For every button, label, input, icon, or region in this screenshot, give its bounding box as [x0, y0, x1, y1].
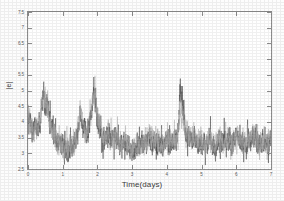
y-tick-mark [28, 138, 32, 139]
y-tick-label: 6.5 [2, 41, 24, 46]
x-axis-label: Time(days) [0, 180, 284, 189]
y-tick-mark [267, 91, 271, 92]
y-tick-mark [28, 75, 32, 76]
x-tick-label: 5 [194, 172, 210, 177]
y-tick-label: 4 [2, 119, 24, 124]
x-tick-label: 0 [20, 172, 36, 177]
y-tick-mark [267, 138, 271, 139]
x-tick-mark [202, 12, 203, 16]
y-tick-mark [267, 75, 271, 76]
x-tick-mark [167, 165, 168, 169]
y-tick-mark [28, 91, 32, 92]
x-tick-mark [63, 165, 64, 169]
y-tick-label: 5 [2, 88, 24, 93]
y-tick-label: 4.5 [2, 104, 24, 109]
y-tick-label: 7 [2, 25, 24, 30]
y-tick-label: 3 [2, 151, 24, 156]
y-tick-label: 3.5 [2, 135, 24, 140]
series-layer [28, 12, 271, 169]
y-tick-label: 6 [2, 57, 24, 62]
x-tick-mark [132, 165, 133, 169]
x-tick-mark [271, 12, 272, 16]
series-path-series-light [28, 76, 271, 160]
y-tick-mark [267, 43, 271, 44]
y-tick-mark [267, 169, 271, 170]
y-tick-mark [28, 169, 32, 170]
y-tick-mark [28, 43, 32, 44]
x-tick-mark [236, 165, 237, 169]
y-tick-label: 7.5 [2, 10, 24, 15]
x-tick-mark [236, 12, 237, 16]
y-tick-label: 2.5 [2, 167, 24, 172]
y-tick-mark [267, 106, 271, 107]
x-tick-mark [167, 12, 168, 16]
y-tick-mark [28, 106, 32, 107]
y-tick-mark [28, 59, 32, 60]
x-tick-label: 3 [124, 172, 140, 177]
x-tick-label: 2 [89, 172, 105, 177]
x-tick-mark [28, 12, 29, 16]
x-tick-mark [271, 165, 272, 169]
y-tick-mark [28, 153, 32, 154]
x-tick-label: 1 [55, 172, 71, 177]
x-tick-mark [63, 12, 64, 16]
y-tick-mark [267, 59, 271, 60]
y-tick-mark [28, 122, 32, 123]
x-tick-label: 4 [159, 172, 175, 177]
plot-frame [27, 11, 272, 170]
x-tick-mark [202, 165, 203, 169]
x-tick-label: 6 [228, 172, 244, 177]
y-tick-mark [267, 153, 271, 154]
x-tick-mark [97, 12, 98, 16]
y-tick-mark [267, 28, 271, 29]
chart-figure: |e| 2.533.544.555.566.577.501234567 Time… [0, 0, 284, 201]
x-tick-mark [28, 165, 29, 169]
y-tick-label: 5.5 [2, 72, 24, 77]
plot-area [28, 12, 271, 169]
x-tick-label: 7 [263, 172, 279, 177]
y-tick-mark [28, 28, 32, 29]
x-tick-mark [132, 12, 133, 16]
y-tick-mark [267, 122, 271, 123]
x-tick-mark [97, 165, 98, 169]
